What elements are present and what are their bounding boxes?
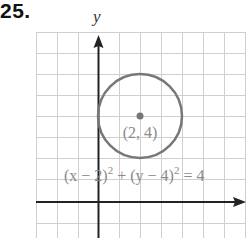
center-point — [137, 113, 144, 120]
center-point-label: (2, 4) — [123, 124, 158, 142]
circle-equation: (x − 2)2 + (y − 4)2 = 4 — [64, 164, 204, 185]
y-axis-label: y — [91, 7, 101, 26]
coordinate-graph: y (2, 4) (x − 2)2 + (y − 4)2 = 4 — [0, 0, 248, 238]
